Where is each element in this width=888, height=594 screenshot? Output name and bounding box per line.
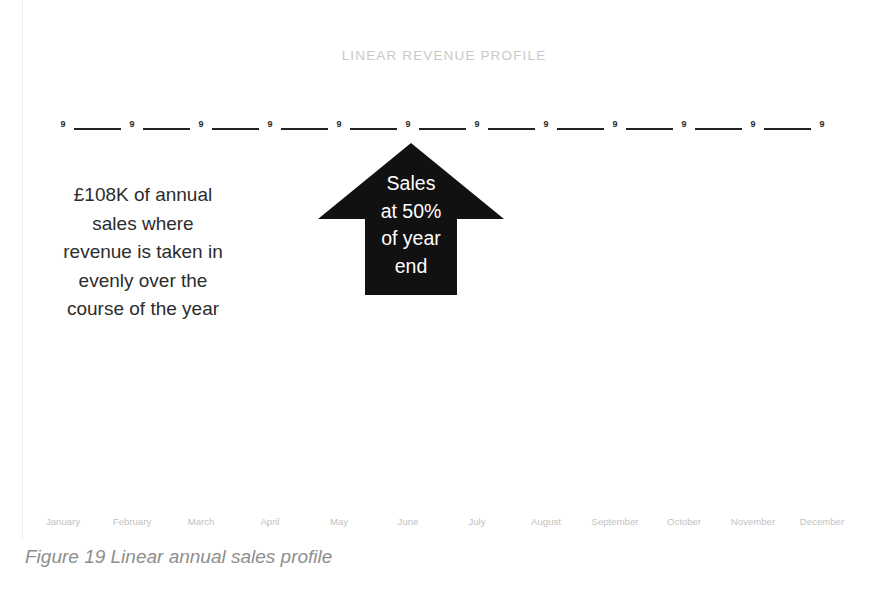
annotation-left-note: £108K of annual sales where revenue is t…: [34, 181, 252, 324]
x-axis-month-label: January: [46, 516, 80, 527]
annotation-line: evenly over the: [34, 267, 252, 296]
x-axis-month-label: October: [667, 516, 701, 527]
data-point-label: 9: [608, 119, 622, 129]
x-axis-month-label: September: [592, 516, 639, 527]
x-axis-month-label: November: [731, 516, 775, 527]
series-line-segment: [350, 128, 397, 130]
series-line-segment: [281, 128, 328, 130]
annotation-line: course of the year: [34, 295, 252, 324]
series-line-segment: [143, 128, 190, 130]
data-point-label: 9: [332, 119, 346, 129]
x-axis-month-label: August: [531, 516, 561, 527]
x-axis-month-label: February: [113, 516, 151, 527]
series-line-segment: [695, 128, 742, 130]
series-line-segment: [488, 128, 535, 130]
data-point-label: 9: [470, 119, 484, 129]
annotation-line: £108K of annual: [34, 181, 252, 210]
x-axis-month-label: December: [800, 516, 844, 527]
data-point-label: 9: [815, 119, 829, 129]
annotation-line: revenue is taken in: [34, 238, 252, 267]
x-axis-month-label: March: [188, 516, 215, 527]
data-point-label: 9: [194, 119, 208, 129]
data-point-label: 9: [125, 119, 139, 129]
series-line-segment: [212, 128, 259, 130]
data-point-label: 9: [56, 119, 70, 129]
x-axis-month-label: June: [398, 516, 419, 527]
series-line-segment: [557, 128, 604, 130]
up-arrow-callout: Sales at 50% of year end: [318, 143, 504, 295]
data-point-label: 9: [677, 119, 691, 129]
data-point-label: 9: [746, 119, 760, 129]
data-point-label: 9: [539, 119, 553, 129]
series-line-segment: [74, 128, 121, 130]
series-line-segment: [626, 128, 673, 130]
figure-caption: Figure 19 Linear annual sales profile: [25, 546, 332, 568]
data-point-label: 9: [401, 119, 415, 129]
series-line-segment: [419, 128, 466, 130]
annotation-line: sales where: [34, 210, 252, 239]
document-page: LINEAR REVENUE PROFILE 9January9February…: [0, 0, 888, 594]
x-axis-month-label: July: [468, 516, 485, 527]
x-axis-month-label: April: [260, 516, 279, 527]
x-axis-month-label: May: [330, 516, 348, 527]
series-line-segment: [764, 128, 811, 130]
up-arrow-icon: [318, 143, 504, 295]
data-point-label: 9: [263, 119, 277, 129]
